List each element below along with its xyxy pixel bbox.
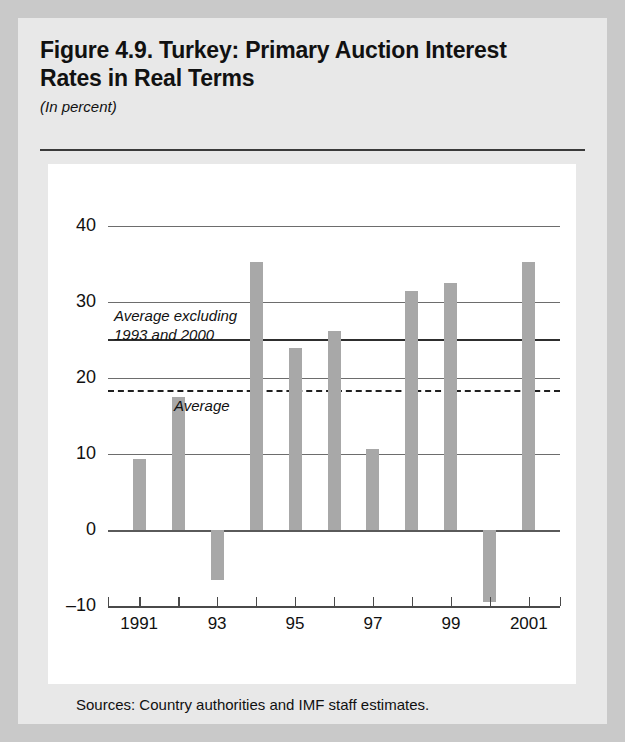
y-axis-label: 30 — [54, 291, 96, 312]
bar-2000 — [483, 530, 496, 602]
bar-1998 — [405, 291, 418, 530]
x-tick-1993 — [217, 597, 218, 606]
title-divider — [40, 149, 585, 151]
annotation-average: Average — [174, 396, 230, 415]
bar-1993 — [211, 530, 224, 580]
bar-1994 — [250, 262, 263, 530]
x-tick-1992 — [178, 597, 179, 606]
x-tick-1998 — [412, 597, 413, 606]
x-axis-label-1991: 1991 — [120, 614, 158, 634]
x-tick-1995 — [295, 597, 296, 606]
x-axis-label-1995: 95 — [286, 614, 305, 634]
figure-subtitle: (In percent) — [40, 98, 585, 115]
annotation-average-excluding: Average excluding 1993 and 2000 — [114, 306, 237, 344]
gridline-40 — [108, 226, 560, 227]
x-tick-2000 — [490, 597, 491, 606]
x-tick-2001 — [529, 597, 530, 606]
x-tick-1994 — [256, 597, 257, 606]
bar-1992 — [172, 397, 185, 530]
y-axis-label: 10 — [54, 443, 96, 464]
x-axis-label-1999: 99 — [441, 614, 460, 634]
y-axis-label: 20 — [54, 367, 96, 388]
bar-1991 — [133, 459, 146, 530]
figure-page: Figure 4.9. Turkey: Primary Auction Inte… — [18, 18, 607, 724]
x-axis-label-2001: 2001 — [510, 614, 548, 634]
y-axis-label: –10 — [54, 595, 96, 616]
x-axis-left-cap — [108, 597, 109, 606]
y-axis-label: 40 — [54, 215, 96, 236]
chart-sources: Sources: Country authorities and IMF sta… — [48, 696, 576, 713]
bar-1999 — [444, 283, 457, 530]
bar-1997 — [366, 449, 379, 530]
y-axis-label: 0 — [54, 519, 96, 540]
bar-1995 — [289, 348, 302, 530]
x-tick-1997 — [373, 597, 374, 606]
chart-card: –100102030401991939597992001Average excl… — [48, 164, 576, 684]
x-axis — [108, 606, 560, 608]
gridline-30 — [108, 302, 560, 303]
bar-chart: –100102030401991939597992001Average excl… — [48, 164, 576, 684]
x-axis-right-cap — [560, 597, 561, 606]
x-axis-label-1997: 97 — [363, 614, 382, 634]
x-tick-1996 — [334, 597, 335, 606]
x-axis-label-1993: 93 — [208, 614, 227, 634]
x-tick-1991 — [139, 597, 140, 606]
bar-2001 — [522, 262, 535, 530]
figure-container: Figure 4.9. Turkey: Primary Auction Inte… — [40, 36, 585, 708]
page-title: Figure 4.9. Turkey: Primary Auction Inte… — [40, 36, 560, 92]
x-tick-1999 — [451, 597, 452, 606]
bar-1996 — [328, 331, 341, 530]
